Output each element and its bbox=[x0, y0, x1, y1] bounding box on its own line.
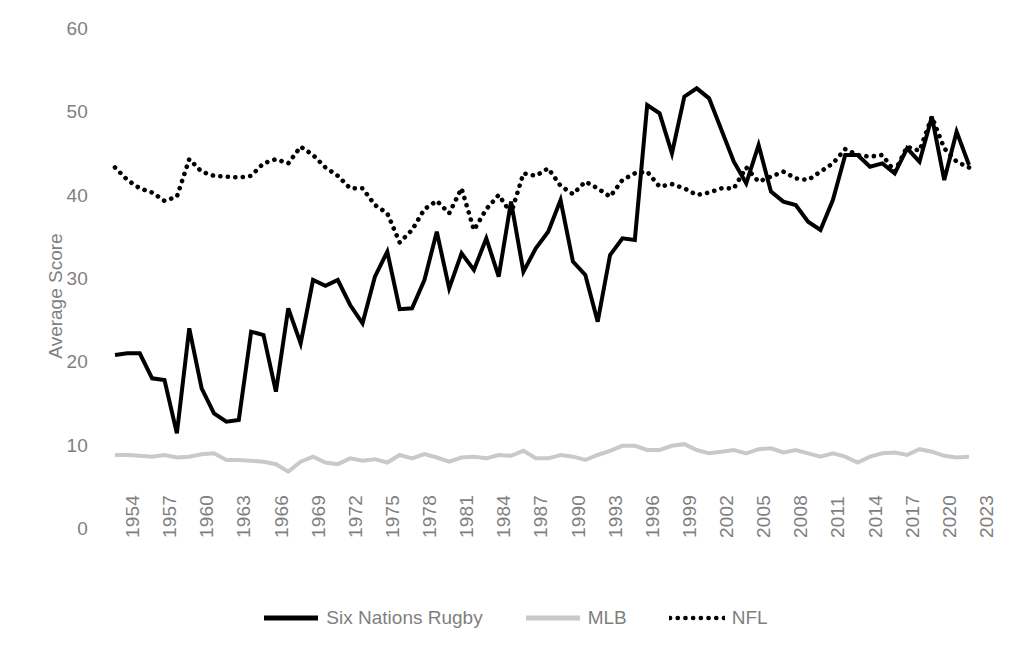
legend-item-label: NFL bbox=[732, 607, 768, 629]
solid-line-black-icon bbox=[263, 612, 319, 624]
chart-legend: Six Nations RugbyMLBNFL bbox=[0, 607, 1031, 629]
series-layer bbox=[115, 88, 969, 471]
legend-item-label: MLB bbox=[588, 607, 627, 629]
series-line-nfl bbox=[115, 117, 969, 243]
series-line-mlb bbox=[115, 444, 969, 472]
legend-item-six-nations-rugby[interactable]: Six Nations Rugby bbox=[263, 607, 482, 629]
legend-item-nfl[interactable]: NFL bbox=[669, 607, 768, 629]
solid-line-gray-icon bbox=[525, 612, 581, 624]
dotted-line-black-icon bbox=[669, 612, 725, 624]
legend-item-label: Six Nations Rugby bbox=[326, 607, 482, 629]
series-line-six-nations-rugby bbox=[115, 88, 969, 433]
legend-item-mlb[interactable]: MLB bbox=[525, 607, 627, 629]
chart-container: Average Score 0102030405060 195419571960… bbox=[0, 0, 1031, 665]
plot-area bbox=[0, 0, 1031, 665]
